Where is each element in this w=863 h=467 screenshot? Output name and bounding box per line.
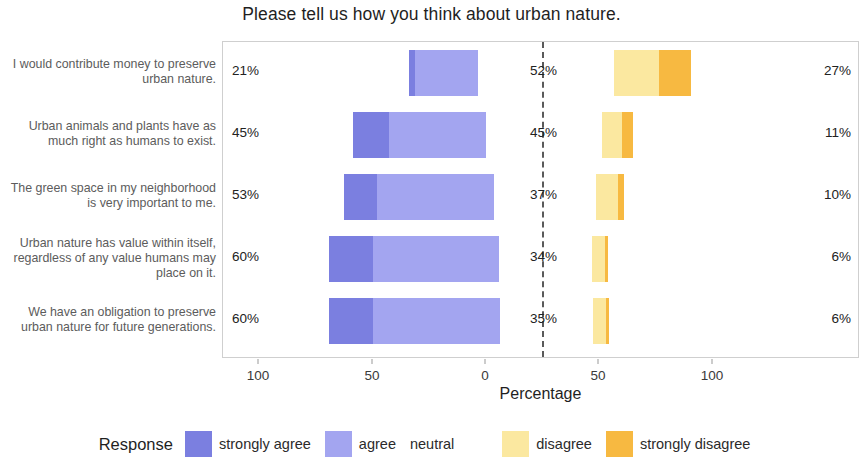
- legend-item[interactable]: disagree: [502, 431, 592, 457]
- chart-container: Please tell us how you think about urban…: [0, 0, 863, 467]
- disagree-segment: [602, 112, 622, 158]
- legend-swatch-strongly-disagree: [606, 431, 633, 457]
- disagree-total-label: 6%: [831, 249, 851, 264]
- agree-total-label: 21%: [232, 63, 259, 78]
- neutral-total-label: 52%: [530, 63, 557, 78]
- strongly-agree-segment: [329, 236, 373, 282]
- neutral-total-label: 45%: [530, 125, 557, 140]
- x-axis-tickmark: [598, 359, 599, 364]
- neutral-total-label: 35%: [530, 311, 557, 326]
- agree-total-label: 45%: [232, 125, 259, 140]
- row-category-label: We have an obligation to preserve urban …: [4, 290, 216, 350]
- neutral-total-label: 37%: [530, 187, 557, 202]
- disagree-total-label: 10%: [824, 187, 851, 202]
- strongly-agree-segment: [329, 298, 373, 344]
- agree-segment: [415, 50, 478, 96]
- disagree-segment: [596, 174, 618, 220]
- legend: Response strongly agreeagreeneutraldisag…: [0, 427, 863, 461]
- legend-item-group: strongly agreeagreeneutraldisagreestrong…: [185, 431, 764, 457]
- x-axis-tick-label: 100: [247, 368, 270, 383]
- x-axis-tickmark: [258, 359, 259, 364]
- row-category-label: Urban nature has value within itself, re…: [4, 228, 216, 288]
- strongly-disagree-segment: [618, 174, 624, 220]
- x-axis-tick-label: 100: [701, 368, 724, 383]
- row-category-label: The green space in my neighborhood is ve…: [4, 166, 216, 226]
- legend-swatch-neutral: [461, 431, 488, 457]
- x-axis-tickmark: [712, 359, 713, 364]
- disagree-segment: [592, 236, 605, 282]
- x-axis-tick-label: 50: [590, 368, 605, 383]
- legend-swatch-strongly-agree: [185, 431, 212, 457]
- legend-item-label: strongly disagree: [640, 436, 750, 452]
- legend-item-label: strongly agree: [219, 436, 311, 452]
- strongly-disagree-segment: [659, 50, 691, 96]
- legend-item[interactable]: strongly agree: [185, 431, 311, 457]
- agree-total-label: 53%: [232, 187, 259, 202]
- neutral-total-label: 34%: [530, 249, 557, 264]
- legend-item[interactable]: agree: [325, 431, 396, 457]
- agree-segment: [377, 174, 494, 220]
- x-axis-tickmark: [485, 359, 486, 364]
- x-axis-title: Percentage: [222, 385, 859, 403]
- chart-title: Please tell us how you think about urban…: [0, 4, 863, 25]
- disagree-segment: [593, 298, 606, 344]
- disagree-segment: [614, 50, 659, 96]
- strongly-agree-segment: [353, 112, 389, 158]
- legend-item-label: disagree: [536, 436, 592, 452]
- legend-swatch-agree: [325, 431, 352, 457]
- x-axis-tick-label: 0: [481, 368, 489, 383]
- legend-item[interactable]: neutral: [410, 431, 488, 457]
- x-axis-tickmark: [372, 359, 373, 364]
- legend-title: Response: [99, 435, 173, 454]
- legend-item-label: agree: [359, 436, 396, 452]
- disagree-total-label: 6%: [831, 311, 851, 326]
- agree-segment: [389, 112, 486, 158]
- disagree-total-label: 27%: [824, 63, 851, 78]
- x-axis-ticks: 10050050100: [222, 359, 859, 385]
- agree-segment: [373, 298, 500, 344]
- strongly-disagree-segment: [622, 112, 633, 158]
- legend-item-label: neutral: [410, 436, 454, 452]
- agree-segment: [373, 236, 499, 282]
- row-category-label: Urban animals and plants have as much ri…: [4, 104, 216, 164]
- legend-swatch-disagree: [502, 431, 529, 457]
- agree-total-label: 60%: [232, 249, 259, 264]
- strongly-agree-segment: [344, 174, 377, 220]
- strongly-disagree-segment: [605, 236, 608, 282]
- strongly-disagree-segment: [606, 298, 609, 344]
- x-axis-tick-label: 50: [364, 368, 379, 383]
- row-category-label: I would contribute money to preserve urb…: [4, 42, 216, 102]
- agree-total-label: 60%: [232, 311, 259, 326]
- disagree-total-label: 11%: [825, 125, 851, 140]
- legend-item[interactable]: strongly disagree: [606, 431, 750, 457]
